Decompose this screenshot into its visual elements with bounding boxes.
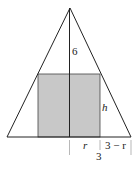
cone-cylinder-diagram: 6 h r 3 − r 3 <box>0 0 140 169</box>
label-h: h <box>102 101 108 113</box>
label-height: 6 <box>72 45 78 57</box>
label-3-minus-r: 3 − r <box>105 139 126 151</box>
label-3: 3 <box>96 150 102 162</box>
label-r: r <box>83 139 88 151</box>
